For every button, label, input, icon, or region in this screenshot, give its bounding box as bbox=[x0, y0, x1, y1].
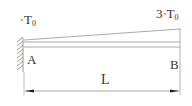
left-temperature-subscript: 0 bbox=[32, 19, 36, 28]
fixed-wall-support bbox=[17, 37, 23, 72]
point-a-label: A bbox=[27, 53, 36, 66]
point-b-label: B bbox=[170, 58, 179, 71]
right-temperature-subscript: 0 bbox=[174, 13, 178, 22]
left-temperature-symbol: T bbox=[24, 12, 32, 27]
beam bbox=[24, 42, 180, 47]
arrowhead-left-icon bbox=[25, 90, 34, 93]
temperature-gradient-line bbox=[24, 29, 180, 40]
arrowhead-right-icon bbox=[170, 90, 179, 93]
right-temperature-label: 3∘T0 bbox=[156, 7, 178, 22]
length-label: L bbox=[101, 73, 110, 87]
left-temperature-label: ∘T0 bbox=[20, 13, 36, 28]
